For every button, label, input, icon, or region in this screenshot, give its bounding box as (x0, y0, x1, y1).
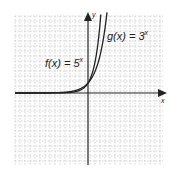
y-axis-label: y (91, 11, 96, 19)
exponential-graph: x y f(x) = 5x g(x) = 3x (0, 0, 177, 182)
f-label: f(x) = 5x (45, 56, 84, 69)
g-label: g(x) = 3x (107, 29, 149, 42)
x-axis-label: x (160, 97, 165, 104)
